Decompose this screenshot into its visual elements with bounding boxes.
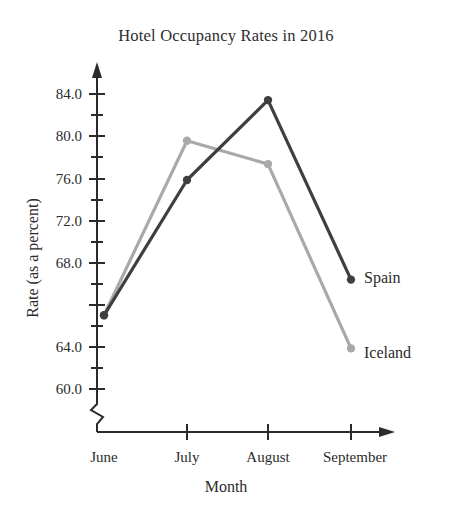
line-chart-plot: 84.0 80.0 76.0 72.0 68.0 64.0 60.0 June … (0, 0, 452, 528)
y-tick-label-76: 76.0 (56, 171, 82, 187)
data-point (183, 176, 191, 184)
series-label-spain: Spain (364, 269, 400, 287)
y-tick-label-64: 64.0 (56, 339, 82, 355)
x-axis-title: Month (205, 478, 248, 495)
x-tick-label-july: July (174, 449, 200, 465)
x-axis-arrowhead (379, 427, 395, 437)
chart-container: Hotel Occupancy Rates in 2016 (0, 0, 452, 528)
data-point (264, 96, 272, 104)
y-axis-arrowhead (92, 62, 102, 78)
x-tick-label-september: September (323, 449, 387, 465)
y-tick-label-80: 80.0 (56, 128, 82, 144)
data-point (347, 275, 355, 283)
y-axis-title: Rate (as a percent) (24, 198, 42, 317)
y-tick-label-72: 72.0 (56, 213, 82, 229)
x-tick-label-august: August (246, 449, 290, 465)
y-axis-break-icon (91, 400, 103, 432)
data-point (264, 160, 272, 168)
series-label-iceland: Iceland (364, 344, 411, 361)
y-tick-label-60: 60.0 (56, 381, 82, 397)
data-point (183, 137, 191, 145)
series-spain: Spain (100, 96, 401, 320)
x-tick-label-june: June (90, 449, 118, 465)
y-tick-label-84: 84.0 (56, 86, 82, 102)
data-point (347, 344, 355, 352)
data-point (100, 311, 108, 319)
y-axis (91, 62, 103, 432)
series-iceland-line (104, 141, 351, 349)
series-spain-line (104, 100, 351, 315)
y-tick-label-68: 68.0 (56, 255, 82, 271)
